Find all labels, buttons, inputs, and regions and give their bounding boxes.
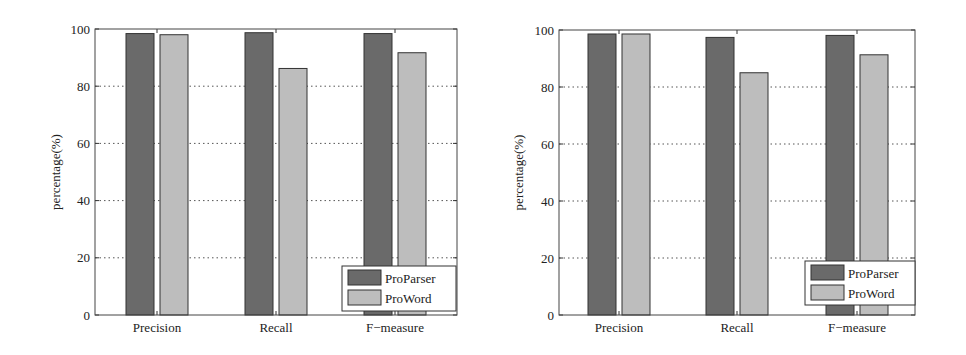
bar-proparser-0 (126, 34, 154, 315)
bar-proparser-1 (706, 37, 734, 315)
legend-swatch-proparser (811, 265, 844, 280)
x-category-label: F−measure (366, 320, 424, 335)
x-category-label: Recall (720, 320, 754, 335)
y-axis-label: percentage(%) (48, 134, 63, 210)
bar-proword-0 (160, 35, 188, 315)
legend: ProParserProWord (805, 261, 915, 305)
y-tick-label: 40 (541, 194, 554, 209)
y-tick-label: 0 (548, 308, 555, 323)
legend-swatch-proword (811, 285, 844, 300)
legend-label: ProWord (848, 286, 895, 301)
y-tick-label: 80 (541, 80, 554, 95)
y-tick-label: 80 (77, 79, 90, 94)
bar-proword-0 (622, 34, 650, 315)
y-tick-label: 20 (77, 250, 90, 265)
legend-label: ProParser (385, 271, 436, 286)
x-category-label: Recall (259, 320, 293, 335)
legend-label: ProWord (385, 291, 432, 306)
legend-label: ProParser (848, 266, 899, 281)
chart-2: 020406080100PrecisionRecallF−measureperc… (511, 23, 915, 336)
y-tick-label: 40 (77, 193, 90, 208)
y-tick-label: 60 (541, 137, 554, 152)
y-tick-label: 20 (541, 251, 554, 266)
x-category-label: Precision (133, 320, 182, 335)
legend-swatch-proword (348, 290, 381, 305)
y-axis-label: percentage(%) (511, 135, 526, 211)
figure: 020406080100PrecisionRecallF−measureperc… (0, 0, 966, 355)
bar-proparser-1 (245, 33, 273, 315)
y-tick-label: 60 (77, 136, 90, 151)
bar-proparser-0 (588, 34, 616, 315)
x-category-label: Precision (595, 320, 644, 335)
bar-proword-1 (279, 68, 307, 315)
legend-swatch-proparser (348, 270, 381, 285)
chart-1: 020406080100PrecisionRecallF−measureperc… (48, 22, 457, 336)
legend: ProParserProWord (342, 266, 456, 311)
y-tick-label: 100 (535, 23, 555, 38)
x-category-label: F−measure (828, 320, 886, 335)
y-tick-label: 0 (84, 308, 91, 323)
bar-proword-1 (740, 73, 768, 315)
y-tick-label: 100 (71, 22, 91, 37)
